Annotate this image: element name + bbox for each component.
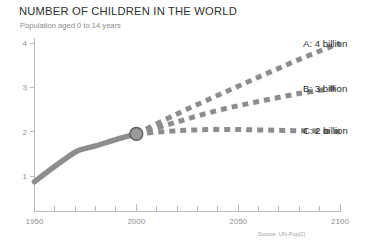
x-tick-label-2000: 2000 [127,217,145,226]
chart-container: NUMBER OF CHILDREN IN THE WORLD Populati… [0,0,368,249]
series-label-a: A: 4 billion [303,38,347,49]
series-group [35,43,341,182]
y-tick-group: 1234 [23,39,35,181]
branch-point-marker [130,127,143,140]
x-axis: 1950200020502100 [26,204,350,226]
branch-marker-group [130,127,143,140]
x-tick-label-2050: 2050 [229,217,247,226]
source-attribution: Source: UN-Pop[2] [258,231,305,237]
series-label-c: C: 2 billion [303,125,348,136]
y-tick-label-4: 4 [23,39,28,48]
x-tick-group: 1950200020502100 [26,204,350,226]
y-tick-label-3: 3 [23,83,28,92]
y-axis: 1234 [23,38,35,212]
series-label-b: B: 3 billion [303,83,347,94]
y-tick-label-2: 2 [23,128,28,137]
series-line-historical [35,134,137,182]
y-tick-label-1: 1 [23,172,28,181]
x-tick-label-2100: 2100 [331,217,349,226]
x-tick-label-1950: 1950 [26,217,44,226]
